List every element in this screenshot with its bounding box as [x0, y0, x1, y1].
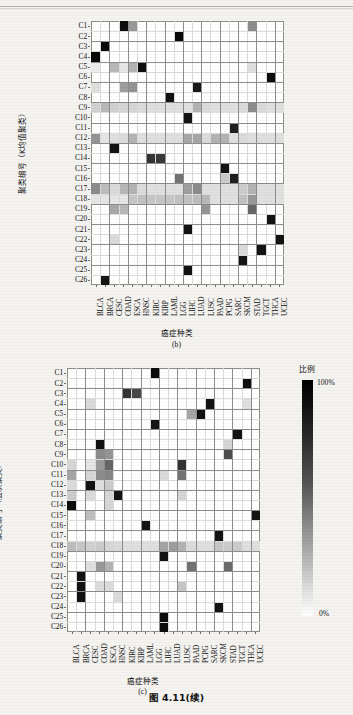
heatmap-y-tick-label: C24 [65, 256, 87, 263]
heatmap-x-tick-label: HNSC [120, 645, 127, 663]
heatmap-cell [201, 194, 210, 204]
gridline-horizontal-major [91, 62, 284, 63]
gridline-horizontal-major [91, 244, 284, 245]
heatmap-cell [91, 82, 100, 92]
heatmap-x-tick-label: LUSC [185, 645, 192, 663]
heatmap-x-tick-label: BLCA [74, 645, 81, 663]
heatmap-x-tick [136, 632, 137, 634]
heatmap-y-tick-label: C3 [65, 43, 87, 50]
heatmap-y-tick-label: C6 [41, 420, 63, 427]
heatmap-x-tick [123, 285, 124, 287]
heatmap-cell [128, 82, 137, 92]
heatmap-cell [109, 183, 118, 193]
heatmap-y-tick [88, 229, 90, 230]
heatmap-cell [192, 102, 201, 112]
heatmap-x-tick-label: SARC [212, 645, 219, 663]
heatmap-x-tick-label: CESC [93, 646, 100, 663]
heatmap-cell [119, 21, 128, 31]
heatmap-cell [247, 102, 256, 112]
heatmap-x-tick-label: LUAD [175, 644, 182, 663]
heatmap-cell [119, 102, 128, 112]
heatmap-cell [91, 133, 100, 143]
heatmap-cell [247, 183, 256, 193]
heatmap-cell [165, 92, 174, 102]
gridline-horizontal-major [67, 470, 260, 471]
heatmap-cell [174, 183, 183, 193]
heatmap-x-tick [145, 632, 146, 634]
heatmap-y-tick-label: C10 [41, 461, 63, 468]
panel-c: C1C2C3C4C5C6C7C8C9C10C11C12C13C14C15C16C… [0, 358, 353, 698]
heatmap-x-tick [237, 632, 238, 634]
heatmap-y-tick [88, 260, 90, 261]
heatmap-y-tick [64, 505, 66, 506]
gridline-vertical-major [85, 368, 86, 632]
gridline-horizontal [67, 439, 260, 440]
heatmap-cell [174, 102, 183, 112]
heatmap-cell [256, 194, 265, 204]
gridline-horizontal-major [67, 409, 260, 410]
heatmap-cell [251, 510, 260, 520]
heatmap-y-tick [88, 189, 90, 190]
heatmap-cell [229, 173, 238, 183]
heatmap-cell [109, 204, 118, 214]
gridline-vertical-major [146, 21, 147, 285]
heatmap-cell [67, 480, 76, 490]
heatmap-cell [155, 153, 164, 163]
heatmap-cell [131, 388, 140, 398]
heatmap-cell [104, 459, 113, 469]
heatmap-cell [165, 133, 174, 143]
panel-c-y-axis-title: 聚类编号（层次聚类） [0, 435, 3, 565]
gridline-horizontal-major [67, 429, 260, 430]
heatmap-cell [220, 183, 229, 193]
heatmap-cell [150, 541, 159, 551]
heatmap-cell [85, 459, 94, 469]
heatmap-x-tick [182, 632, 183, 634]
heatmap-x-tick [178, 285, 179, 287]
heatmap-cell [85, 480, 94, 490]
heatmap-cell [183, 112, 192, 122]
heatmap-y-tick [64, 424, 66, 425]
heatmap-cell [183, 133, 192, 143]
gridline-horizontal [67, 622, 260, 623]
heatmap-y-tick [64, 515, 66, 516]
gridline-horizontal-major [91, 224, 284, 225]
heatmap-y-tick [64, 444, 66, 445]
heatmap-cell [183, 224, 192, 234]
heatmap-cell [266, 194, 275, 204]
heatmap-cell [76, 581, 85, 591]
gridline-horizontal [67, 378, 260, 379]
heatmap-cell [150, 368, 159, 378]
panel-b-x-axis-title: 癌症种类 [0, 327, 353, 338]
gridline-horizontal [91, 133, 284, 134]
heatmap-x-tick-label: BLCA [98, 298, 105, 316]
heatmap-cell [146, 133, 155, 143]
heatmap-x-tick-label: LUAD [199, 297, 206, 316]
heatmap-cell [95, 470, 104, 480]
heatmap-y-tick-label: C3 [41, 390, 63, 397]
heatmap-cell [159, 541, 168, 551]
heatmap-cell [159, 551, 168, 561]
heatmap-cell [192, 194, 201, 204]
gridline-vertical-major [104, 368, 105, 632]
heatmap-cell [223, 561, 232, 571]
heatmap-cell [109, 234, 118, 244]
heatmap-y-tick-label: C13 [65, 144, 87, 151]
heatmap-y-tick-label: C26 [41, 623, 63, 630]
heatmap-y-tick [64, 607, 66, 608]
heatmap-cell [131, 541, 140, 551]
heatmap-y-tick-label: C23 [65, 246, 87, 253]
gridline-horizontal-major [91, 123, 284, 124]
heatmap-y-tick [88, 148, 90, 149]
heatmap-x-tick-label: LGG [157, 649, 164, 663]
heatmap-cell [247, 133, 256, 143]
heatmap-x-tick [169, 285, 170, 287]
heatmap-cell [266, 214, 275, 224]
heatmap-cell [122, 388, 131, 398]
heatmap-cell [220, 163, 229, 173]
heatmap-cell [85, 541, 94, 551]
heatmap-cell [95, 459, 104, 469]
heatmap-x-tick-label: PCPG [203, 646, 210, 663]
heatmap-cell [76, 541, 85, 551]
heatmap-y-tick-label: C22 [65, 236, 87, 243]
heatmap-cell [177, 581, 186, 591]
